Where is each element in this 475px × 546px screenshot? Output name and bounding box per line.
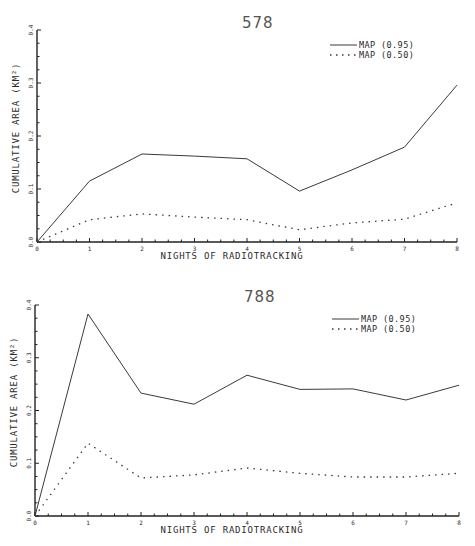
legend-label: MAP (0.95) (361, 314, 416, 324)
chart-title: 788 (244, 288, 276, 306)
y-tick-label: 0.4 (27, 24, 34, 35)
y-axis-label: CUMULATIVE AREA (KM²) (9, 337, 19, 468)
x-tick-label: 1 (88, 245, 92, 252)
legend-label: MAP (0.50) (359, 50, 414, 60)
x-tick-label: 8 (457, 519, 461, 526)
series-line-map-095 (37, 85, 457, 242)
chart-title: 578 (242, 14, 274, 32)
y-tick-label: 0.1 (27, 183, 34, 194)
y-tick-label: 0.1 (25, 457, 32, 468)
y-tick-label: 0.2 (27, 130, 34, 141)
series-line-map-050 (35, 443, 459, 516)
chart-panel-788: 7880123456780.00.10.20.30.4NIGHTS OF RAD… (9, 288, 461, 535)
y-tick-label: 0.4 (25, 299, 32, 310)
legend-label: MAP (0.50) (361, 324, 416, 334)
series-line-map-050 (37, 203, 457, 242)
x-tick-label: 0 (33, 519, 37, 526)
y-tick-label: 0.3 (27, 77, 34, 88)
x-tick-label: 7 (403, 245, 407, 252)
series-line-map-095 (35, 314, 459, 516)
x-tick-label: 2 (140, 245, 144, 252)
figure: 5780123456780.00.10.20.30.4NIGHTS OF RAD… (0, 0, 475, 546)
y-tick-label: 0.3 (25, 352, 32, 363)
y-axis-label: CUMULATIVE AREA (KM²) (11, 63, 21, 194)
legend: MAP (0.95)MAP (0.50) (332, 314, 416, 334)
y-tick-label: 0.2 (25, 405, 32, 416)
y-tick-label: 0.0 (25, 510, 32, 521)
legend-label: MAP (0.95) (359, 40, 414, 50)
x-axis-label: NIGHTS OF RADIOTRACKING (160, 525, 303, 535)
x-axis-label: NIGHTS OF RADIOTRACKING (160, 251, 303, 261)
axes: 0123456780.00.10.20.30.4NIGHTS OF RADIOT… (9, 299, 461, 535)
x-tick-label: 7 (404, 519, 408, 526)
y-tick-label: 0.0 (27, 236, 34, 247)
x-tick-label: 1 (86, 519, 90, 526)
x-tick-label: 8 (455, 245, 459, 252)
chart-panel-578: 5780123456780.00.10.20.30.4NIGHTS OF RAD… (11, 14, 459, 261)
x-tick-label: 2 (139, 519, 143, 526)
legend: MAP (0.95)MAP (0.50) (330, 40, 414, 60)
x-tick-label: 0 (35, 245, 39, 252)
x-tick-label: 6 (351, 519, 355, 526)
x-tick-label: 6 (350, 245, 354, 252)
